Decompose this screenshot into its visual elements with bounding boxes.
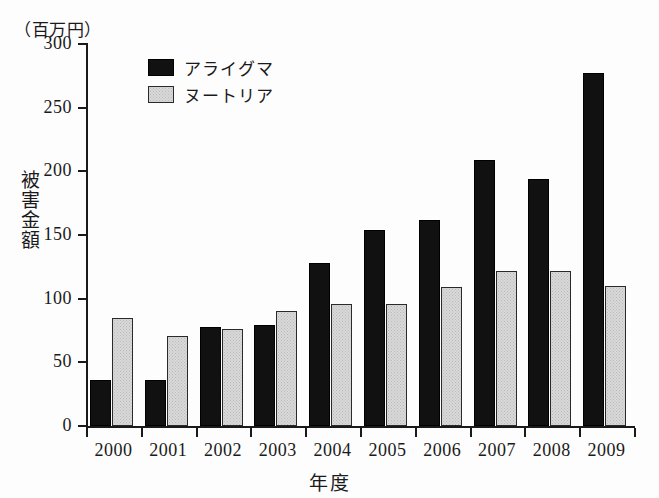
y-tick-label-text: 100: [8, 289, 72, 307]
x-tick-2002: [196, 428, 198, 437]
y-tick-label-200: 200: [8, 161, 72, 179]
bar-2006-nutria: [441, 287, 462, 426]
x-tick-2008: [524, 428, 526, 437]
y-tick-label-250: 250: [8, 98, 72, 116]
x-tick-2004: [305, 428, 307, 437]
x-tick-2001: [141, 428, 143, 437]
bar-2004-araiguma: [309, 263, 330, 426]
legend-label: ヌートリア: [184, 82, 274, 107]
y-tick-label-50: 50: [8, 352, 72, 370]
x-tick-2006: [415, 428, 417, 437]
bar-2007-nutria: [496, 271, 517, 426]
bar-2008-nutria: [550, 271, 571, 426]
x-tick-end: [634, 428, 636, 437]
bar-2001-nutria: [167, 336, 188, 426]
bar-2000-nutria: [112, 318, 133, 426]
bar-2003-nutria: [276, 311, 297, 426]
y-tick-label-text: 150: [8, 225, 72, 243]
x-tick-2007: [470, 428, 472, 437]
bar-2001-araiguma: [145, 380, 166, 426]
bar-2007-araiguma: [474, 160, 495, 426]
bar-2004-nutria: [331, 304, 352, 426]
y-tick-label-text: 0: [8, 416, 72, 434]
x-tick-2005: [360, 428, 362, 437]
legend: アライグマヌートリア: [148, 56, 274, 110]
bar-2009-araiguma: [583, 73, 604, 426]
y-tick-label-text: 300: [8, 34, 72, 52]
x-tick-label-2009: 2009: [572, 440, 642, 461]
y-tick-label-text: 200: [8, 161, 72, 179]
bar-2006-araiguma: [419, 220, 440, 426]
legend-label: アライグマ: [184, 55, 274, 80]
bar-2000-araiguma: [90, 380, 111, 426]
legend-swatch-icon: [148, 59, 174, 76]
y-tick-label-text: 50: [8, 352, 72, 370]
bar-2009-nutria: [605, 286, 626, 426]
x-tick-2003: [250, 428, 252, 437]
bar-2005-araiguma: [364, 230, 385, 426]
bar-2002-araiguma: [200, 327, 221, 426]
legend-swatch-icon: [148, 86, 174, 103]
bar-2008-araiguma: [528, 179, 549, 426]
y-tick-label-0: 0: [8, 416, 72, 434]
legend-item-nutria: ヌートリア: [148, 83, 274, 106]
x-tick-2000: [86, 428, 88, 437]
bar-2005-nutria: [386, 304, 407, 426]
bar-2002-nutria: [222, 329, 243, 426]
legend-item-araiguma: アライグマ: [148, 56, 274, 79]
x-tick-2009: [579, 428, 581, 437]
y-tick-label-text: 250: [8, 98, 72, 116]
x-axis-title: 年度: [0, 468, 659, 495]
y-tick-label-100: 100: [8, 289, 72, 307]
y-tick-label-300: 300: [8, 34, 72, 52]
bar-2003-araiguma: [254, 325, 275, 426]
bar-chart: （百万円） 被害金額 050100150200250300 2000200120…: [0, 0, 659, 498]
y-tick-label-150: 150: [8, 225, 72, 243]
